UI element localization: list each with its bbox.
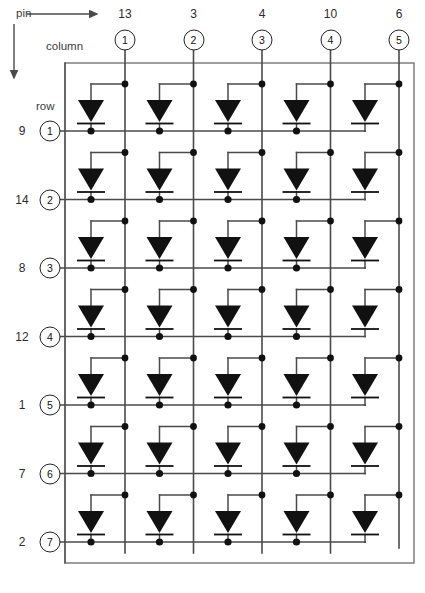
- column-index-circle-5[interactable]: 5: [389, 30, 410, 51]
- column-index-circle-4[interactable]: 4: [320, 30, 341, 51]
- column-index-circle-1[interactable]: 1: [115, 30, 136, 51]
- row-index-circle-2[interactable]: 2: [40, 189, 61, 210]
- column-pin-label-4: 10: [324, 7, 337, 21]
- pin-axis-label: pin: [16, 7, 31, 19]
- row-index-circle-4[interactable]: 4: [40, 326, 61, 347]
- column-index-circle-3[interactable]: 3: [252, 30, 273, 51]
- row-pin-label-5: 1: [19, 398, 26, 412]
- row-index-circle-5[interactable]: 5: [40, 395, 61, 416]
- row-index-circle-1[interactable]: 1: [40, 121, 61, 142]
- column-pin-label-1: 13: [118, 7, 131, 21]
- row-pin-label-6: 7: [19, 467, 26, 481]
- column-axis-label: column: [46, 40, 83, 52]
- figure-caption: [0, 583, 425, 593]
- row-pin-label-2: 14: [15, 193, 28, 207]
- column-pin-label-3: 4: [259, 7, 266, 21]
- junction-dots: [87, 81, 402, 546]
- column-pin-label-5: 6: [396, 7, 403, 21]
- schematic-canvas: pin column row 1334106 12345 914812172 1…: [0, 0, 425, 593]
- row-pin-label-4: 12: [15, 330, 28, 344]
- column-index-circle-2[interactable]: 2: [183, 30, 204, 51]
- row-pin-label-3: 8: [19, 261, 26, 275]
- led-matrix-svg: [0, 0, 425, 593]
- row-index-circle-7[interactable]: 7: [40, 532, 61, 553]
- row-pin-label-7: 2: [19, 535, 26, 549]
- row-index-circle-6[interactable]: 6: [40, 463, 61, 484]
- row-pin-label-1: 9: [19, 124, 26, 138]
- column-pin-label-2: 3: [190, 7, 197, 21]
- row-index-circle-3[interactable]: 3: [40, 258, 61, 279]
- row-axis-label: row: [36, 100, 55, 112]
